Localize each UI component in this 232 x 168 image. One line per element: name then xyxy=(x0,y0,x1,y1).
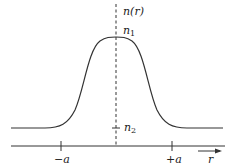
axis-label: r xyxy=(208,153,214,166)
tick-minus-a-label: −a xyxy=(54,153,70,166)
function-label: n(r) xyxy=(123,5,144,18)
profile-curve xyxy=(11,37,223,128)
arrow-head-icon xyxy=(215,149,222,154)
tick-plus-a-label: +a xyxy=(166,153,182,166)
peak-label: n1 xyxy=(123,24,135,38)
base-label: n2 xyxy=(124,121,136,135)
index-profile-diagram: n(r) n1 n2 −a +a r xyxy=(0,0,232,168)
